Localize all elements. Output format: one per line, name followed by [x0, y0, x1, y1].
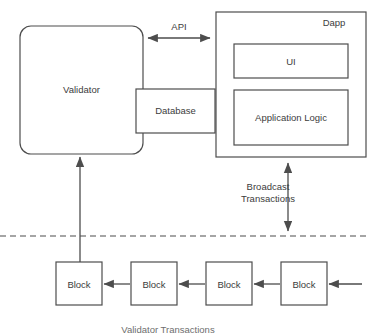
- block-label-4: Block: [292, 279, 315, 290]
- broadcast-label-line1: Broadcast: [247, 181, 290, 192]
- api-label: API: [171, 21, 186, 32]
- broadcast-label-line2: Transactions: [241, 193, 295, 204]
- block-label-3: Block: [217, 279, 240, 290]
- ui-label: UI: [286, 56, 296, 67]
- block-label-1: Block: [67, 279, 90, 290]
- diagram-canvas: Validator Database Dapp UI Application L…: [0, 0, 370, 335]
- dapp-label: Dapp: [323, 17, 346, 28]
- block-label-2: Block: [142, 279, 165, 290]
- architecture-diagram: Validator Database Dapp UI Application L…: [0, 0, 370, 335]
- validator-label: Validator: [63, 84, 100, 95]
- diagram-caption: Validator Transactions: [121, 324, 215, 335]
- database-label: Database: [155, 105, 196, 116]
- application-logic-label: Application Logic: [255, 112, 327, 123]
